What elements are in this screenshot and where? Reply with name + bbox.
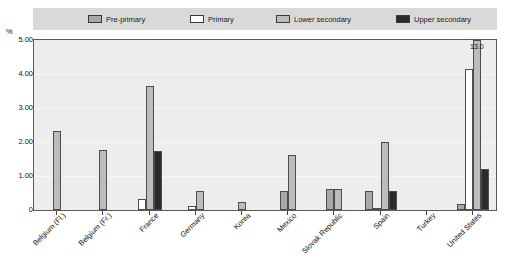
legend-swatch-primary [190, 15, 204, 23]
x-tick-label: Korea [232, 211, 253, 232]
chart-bars: 13.0 [34, 40, 496, 210]
bar-primary [373, 208, 381, 210]
legend-swatch-upper-secondary [396, 15, 410, 23]
x-tick-label: Turkey [415, 211, 437, 233]
bar-lower-secondary [196, 191, 204, 210]
legend-item-upper-secondary: Upper secondary [396, 12, 471, 26]
chart-legend: Pre-primary Primary Lower secondary Uppe… [33, 8, 497, 30]
y-tick-label: 4.00 [7, 69, 33, 78]
bar-lower-secondary [146, 86, 154, 210]
bar-pre-primary [457, 204, 465, 210]
bar-lower-secondary [381, 142, 389, 210]
bar-pre-primary [280, 191, 288, 210]
x-tick-label: United States [445, 211, 483, 249]
legend-swatch-pre-primary [88, 15, 102, 23]
bar-primary [138, 199, 146, 210]
y-tick-label: 5.00 [7, 35, 33, 44]
x-tick-label: France [137, 211, 160, 234]
bar-upper-secondary [481, 169, 489, 210]
legend-label-primary: Primary [208, 15, 234, 24]
bar-lower-secondary [53, 131, 61, 210]
y-tick-label: 1.00 [7, 171, 33, 180]
legend-item-primary: Primary [190, 12, 234, 26]
x-axis-labels: Belgium (Fl.)Belgium (Fr.)FranceGermanyK… [0, 211, 505, 268]
bar-lower-secondary [238, 202, 246, 211]
bar-value-label: 13.0 [470, 43, 484, 50]
chart-plot-area: 13.0 [33, 39, 497, 211]
bar-pre-primary [326, 189, 334, 210]
x-tick-label: Spain [371, 211, 391, 231]
x-tick-label: Belgium (Fl.) [31, 211, 67, 247]
y-axis-labels: 01.002.003.004.005.00 [0, 39, 33, 211]
x-tick-label: Mexico [275, 211, 298, 234]
bar-pre-primary [365, 191, 373, 210]
bar-primary [188, 206, 196, 210]
bar-upper-secondary [389, 191, 397, 210]
legend-label-lower-secondary: Lower secondary [294, 15, 351, 24]
bar-lower-secondary [99, 150, 107, 210]
x-tick-label: Belgium (Fr.) [77, 211, 114, 248]
bar-upper-secondary [154, 151, 162, 210]
x-tick-label: Germany [178, 211, 206, 239]
bar-primary [465, 69, 473, 210]
legend-swatch-lower-secondary [276, 15, 290, 23]
x-tick-label: Slovak Republic [300, 211, 344, 255]
legend-label-pre-primary: Pre-primary [106, 15, 145, 24]
bar-lower-secondary [473, 40, 481, 210]
legend-item-lower-secondary: Lower secondary [276, 12, 351, 26]
y-tick-label: 2.00 [7, 137, 33, 146]
legend-label-upper-secondary: Upper secondary [414, 15, 471, 24]
bar-lower-secondary [288, 155, 296, 210]
bar-lower-secondary [334, 189, 342, 210]
legend-item-pre-primary: Pre-primary [88, 12, 145, 26]
y-tick-label: 3.00 [7, 103, 33, 112]
